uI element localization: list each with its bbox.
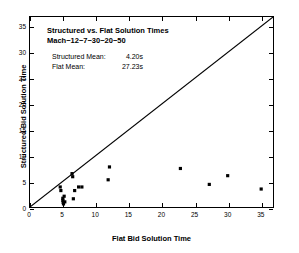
x-tick-top	[162, 17, 163, 21]
data-point	[107, 178, 110, 181]
structured-mean-row: Structured Mean: 4.20s	[52, 52, 169, 62]
y-tick-right	[269, 157, 273, 158]
structured-mean-value: 4.20s	[109, 52, 143, 62]
chart-subtitle: Mach−12−7−30−20−50	[47, 36, 169, 46]
x-tick	[63, 203, 64, 207]
x-tick	[30, 203, 31, 207]
x-tick-label: 10	[92, 211, 99, 218]
y-tick-label: 0	[13, 205, 26, 212]
x-tick-label: 35	[257, 211, 264, 218]
y-tick	[30, 157, 34, 158]
y-tick	[30, 209, 34, 210]
chart-title: Structured vs. Flat Solution Times	[47, 26, 169, 36]
x-tick-label: 15	[125, 211, 132, 218]
x-tick-label: 0	[27, 211, 31, 218]
y-tick-right	[269, 183, 273, 184]
y-tick-label: 35	[13, 23, 26, 30]
data-point	[108, 165, 111, 168]
scatter-plot-figure: 05101520253035 05101520253035 Flat Bid S…	[0, 0, 299, 253]
x-tick-top	[63, 17, 64, 21]
data-point	[59, 185, 62, 188]
x-tick-top	[196, 17, 197, 21]
y-tick-right	[269, 209, 273, 210]
data-point	[260, 187, 263, 190]
x-tick-top	[262, 17, 263, 21]
x-tick-top	[129, 17, 130, 21]
y-tick-right	[269, 53, 273, 54]
x-tick-label: 30	[224, 211, 231, 218]
data-point	[59, 189, 62, 192]
data-point	[70, 172, 73, 175]
data-point	[71, 175, 74, 178]
data-point	[73, 189, 76, 192]
flat-mean-row: Flat Mean: 27.23s	[52, 62, 169, 72]
x-tick	[262, 203, 263, 207]
data-point	[179, 167, 182, 170]
y-axis-title: Structured Bid Solution Time	[19, 42, 28, 192]
data-point	[63, 195, 66, 198]
y-tick	[30, 183, 34, 184]
data-point	[226, 174, 229, 177]
x-axis-title: Flat Bid Solution Time	[29, 234, 274, 243]
y-tick-right	[269, 27, 273, 28]
x-tick-top	[30, 17, 31, 21]
x-tick-label: 5	[60, 211, 64, 218]
flat-mean-label: Flat Mean:	[52, 62, 109, 72]
x-tick-top	[96, 17, 97, 21]
flat-mean-value: 27.23s	[109, 62, 143, 72]
data-point	[77, 185, 80, 188]
data-points	[59, 165, 263, 205]
statistics-block: Structured Mean: 4.20s Flat Mean: 27.23s	[52, 52, 169, 72]
x-tick-label: 25	[191, 211, 198, 218]
data-point	[208, 183, 211, 186]
x-tick	[129, 203, 130, 207]
annotation-block: Structured vs. Flat Solution Times Mach−…	[47, 26, 169, 72]
y-tick	[30, 131, 34, 132]
x-tick	[229, 203, 230, 207]
x-tick	[96, 203, 97, 207]
structured-mean-label: Structured Mean:	[52, 52, 109, 62]
y-tick-right	[269, 131, 273, 132]
x-tick-label: 20	[158, 211, 165, 218]
y-tick	[30, 79, 34, 80]
chart-title-block: Structured vs. Flat Solution Times Mach−…	[47, 26, 169, 46]
y-tick-right	[269, 79, 273, 80]
y-tick-right	[269, 105, 273, 106]
y-tick	[30, 105, 34, 106]
y-tick	[30, 53, 34, 54]
data-point	[72, 197, 75, 200]
x-tick	[196, 203, 197, 207]
y-tick	[30, 27, 34, 28]
data-point	[80, 185, 83, 188]
x-tick	[162, 203, 163, 207]
x-tick-top	[229, 17, 230, 21]
